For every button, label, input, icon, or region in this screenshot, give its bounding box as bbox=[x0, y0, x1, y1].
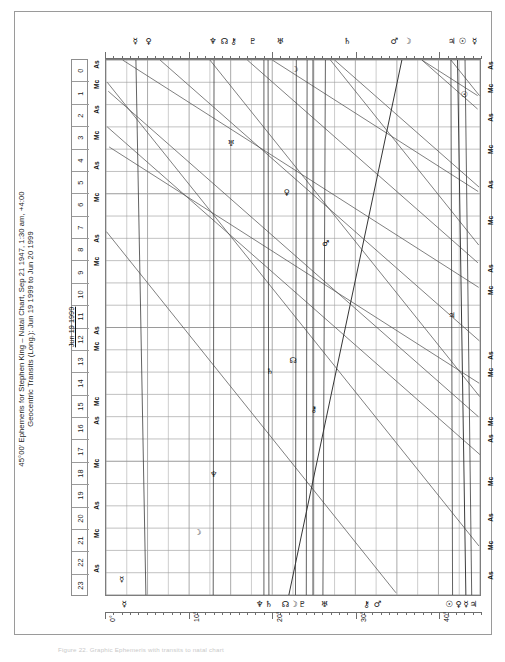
angle-label-as: As bbox=[483, 433, 498, 443]
hour-cell-label: 15 bbox=[76, 402, 85, 411]
angle-label-text: As bbox=[93, 501, 100, 509]
planet-glyph-rail-bottom: ☿♆♄☊☽♇♅⚷♂☉♀☿♃ bbox=[105, 597, 481, 611]
hour-cell-20: 20 bbox=[72, 508, 89, 530]
angle-label-text: As bbox=[93, 60, 100, 68]
angle-label-as: As bbox=[483, 350, 498, 360]
hour-cell-4: 4 bbox=[72, 150, 89, 172]
ruler-tick-29 bbox=[347, 612, 348, 615]
chart-subtitle-line-2: Geocentric Transits (Long.): Jun 19 1999… bbox=[26, 114, 35, 544]
angle-transit-line-1 bbox=[160, 60, 479, 341]
angle-label-mc: Mc bbox=[483, 83, 498, 93]
ruler-tick-22 bbox=[289, 612, 290, 615]
angle-label-as: As bbox=[483, 513, 498, 523]
hour-cell-label: 20 bbox=[76, 514, 85, 523]
ruler-tick-26 bbox=[322, 612, 323, 615]
ruler-tick-20 bbox=[272, 612, 273, 619]
angle-label-as: As bbox=[89, 326, 104, 336]
angle-transit-line-4 bbox=[422, 60, 478, 109]
angle-label-text: Mc bbox=[487, 417, 494, 426]
angle-label-mc: Mc bbox=[483, 286, 498, 296]
x-axis-tick-label-10: 10° bbox=[193, 611, 200, 622]
venus-glyph: ♀ bbox=[455, 597, 461, 611]
angle-transit-line-12 bbox=[123, 60, 479, 287]
hour-cell-5: 5 bbox=[72, 172, 89, 194]
angle-transit-line-11 bbox=[106, 232, 395, 593]
angle-label-mc: Mc bbox=[483, 145, 498, 155]
hour-cell-1: 1 bbox=[72, 82, 89, 104]
ruler-tick-14 bbox=[222, 612, 223, 615]
ruler-tick-42 bbox=[456, 612, 457, 615]
ruler-tick-13 bbox=[214, 612, 215, 615]
ruler-tick-27 bbox=[331, 612, 332, 615]
angle-transit-line-5 bbox=[107, 127, 480, 455]
ruler-tick-5 bbox=[147, 612, 148, 615]
angle-label-as: As bbox=[483, 179, 498, 189]
angle-label-text: As bbox=[93, 327, 100, 335]
hour-cell-label: 22 bbox=[76, 559, 85, 568]
hour-cell-label: 4 bbox=[76, 158, 85, 162]
ruler-tick-45 bbox=[481, 612, 482, 615]
hour-cell-label: 8 bbox=[76, 248, 85, 252]
bottom-degree-ruler bbox=[105, 612, 481, 621]
ruler-tick-40 bbox=[439, 612, 440, 619]
angle-label-mc: Mc bbox=[89, 459, 104, 469]
hour-cell-label: 17 bbox=[76, 447, 85, 456]
chart-title-block: 45°00' Ephemeris for Stephen King – Nata… bbox=[17, 114, 51, 544]
mercury-glyph: ☿ bbox=[122, 597, 127, 611]
angle-label-as: As bbox=[89, 563, 104, 573]
angle-label-as: As bbox=[483, 263, 498, 273]
ruler-tick-15 bbox=[230, 612, 231, 615]
ruler-tick-40 bbox=[439, 52, 440, 59]
saturn-glyph: ♄ bbox=[343, 34, 351, 48]
angle-label-text: Mc bbox=[487, 541, 494, 550]
ruler-tick-44 bbox=[473, 612, 474, 615]
angle-label-text: As bbox=[93, 161, 100, 169]
ruler-tick-3 bbox=[130, 612, 131, 615]
hour-cell-label: 3 bbox=[76, 136, 85, 140]
page-frame: 45°00' Ephemeris for Stephen King – Nata… bbox=[14, 11, 492, 635]
mercury-glyph: ☿ bbox=[132, 34, 137, 48]
chiron-glyph: ⚷ bbox=[231, 34, 237, 48]
hour-cell-label: 21 bbox=[76, 536, 85, 545]
transit-plot-area[interactable]: ☿☽♆⚷☊♄♃♂♀♅☉☽ bbox=[105, 59, 481, 596]
x-axis-tick-label-20: 20° bbox=[276, 611, 283, 622]
angle-label-text: Mc bbox=[93, 130, 100, 139]
venus-glyph: ♀ bbox=[145, 34, 151, 48]
angle-label-as: As bbox=[483, 61, 498, 71]
angle-label-text: As bbox=[93, 564, 100, 572]
angle-label-text: As bbox=[93, 416, 100, 424]
angle-transit-line-13 bbox=[272, 60, 478, 192]
ruler-tick-17 bbox=[247, 612, 248, 615]
hour-cell-label: 6 bbox=[76, 203, 85, 207]
angle-label-mc: Mc bbox=[483, 477, 498, 487]
ruler-tick-16 bbox=[239, 612, 240, 615]
angle-label-text: As bbox=[93, 105, 100, 113]
angle-label-text: As bbox=[487, 513, 494, 521]
mercury-glyph: ☿ bbox=[472, 34, 477, 48]
hour-cell-2: 2 bbox=[72, 105, 89, 127]
chiron-glyph: ⚷ bbox=[363, 597, 369, 611]
ruler-tick-10 bbox=[189, 612, 190, 619]
hour-cell-label: 14 bbox=[76, 380, 85, 389]
angle-label-as: As bbox=[483, 112, 498, 122]
uranus-glyph: ♅ bbox=[321, 597, 329, 611]
x-axis-tick-label-40: 40° bbox=[443, 611, 450, 622]
hour-cell-14: 14 bbox=[72, 373, 89, 395]
angle-label-text: As bbox=[487, 351, 494, 359]
hour-cell-label: 19 bbox=[76, 492, 85, 501]
hour-cell-label: 2 bbox=[76, 113, 85, 117]
mars-glyph: ♂ bbox=[390, 34, 398, 48]
hour-cell-21: 21 bbox=[72, 530, 89, 552]
neptune-glyph: ♆ bbox=[256, 597, 264, 611]
hour-cell-label: 18 bbox=[76, 469, 85, 478]
hour-cell-7: 7 bbox=[72, 217, 89, 239]
transit-line-node bbox=[295, 60, 296, 595]
angle-label-mc: Mc bbox=[89, 342, 104, 352]
angle-label-text: As bbox=[487, 113, 494, 121]
jupiter-glyph: ♃ bbox=[470, 597, 478, 611]
angle-label-text: Mc bbox=[93, 397, 100, 406]
sun-glyph: ☉ bbox=[445, 597, 453, 611]
angle-label-text: Mc bbox=[93, 80, 100, 89]
angle-transit-line-0 bbox=[108, 91, 478, 416]
x-axis-tick-label-30: 30° bbox=[360, 611, 367, 622]
